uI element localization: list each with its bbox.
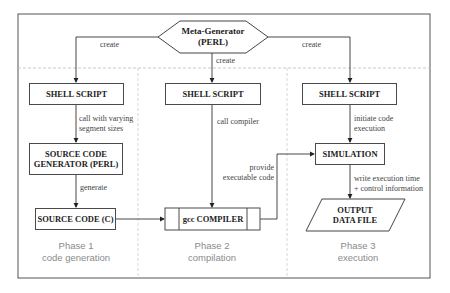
source-code-c: SOURCE CODE (C) (35, 208, 116, 230)
edge-label-create-right: create (302, 40, 321, 50)
phase-3-label: Phase 3execution (288, 240, 428, 264)
shell-script-3: SHELL SCRIPT (302, 83, 397, 105)
meta-generator-label: Meta-Generator (PERL) (168, 26, 258, 48)
meta-generator-line2: (PERL) (168, 37, 258, 48)
edge-label-initiate: initiate codeexecution (354, 114, 393, 134)
shell-script-2: SHELL SCRIPT (165, 83, 261, 105)
output-data-file: OUTPUTDATA FILE (315, 202, 395, 228)
edge-label-create-mid: create (216, 56, 235, 66)
edge-label-call-varying: call with varyingsegment sizes (79, 114, 133, 134)
source-code-generator: SOURCE CODEGENERATOR (PERL) (29, 143, 123, 175)
phase-2-label: Phase 2compilation (142, 240, 282, 264)
meta-generator-line1: Meta-Generator (168, 26, 258, 37)
gcc-compiler: gcc COMPILER (179, 208, 247, 230)
edge-label-write: write execution time+ control informatio… (354, 174, 423, 194)
simulation: SIMULATION (315, 143, 385, 165)
edge-label-create-left: create (100, 40, 119, 50)
edge-label-generate: generate (80, 183, 107, 193)
phase-1-label: Phase 1code generation (6, 240, 146, 264)
edge-label-provide: provideexecutable code (222, 163, 274, 183)
edge-label-call-compiler: call compiler (217, 117, 259, 127)
shell-script-1: SHELL SCRIPT (29, 83, 124, 105)
